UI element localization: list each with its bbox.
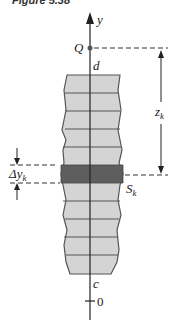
arrow-up-icon [14, 183, 20, 190]
figure-caption: Figure 5.38 [12, 0, 71, 6]
strip-width-label: Δyk [8, 166, 27, 183]
y-axis-arrow-icon [86, 12, 94, 24]
point-q [88, 46, 93, 51]
figure-diagram: Figure 5.38 y 0 c d Q zk Δyk Sk [0, 0, 177, 328]
bottom-limit-label: c [93, 276, 99, 291]
horizontal-strip [61, 165, 123, 183]
point-q-label: Q [74, 40, 84, 55]
origin-label: 0 [97, 294, 104, 309]
top-limit-label: d [93, 58, 100, 73]
y-axis-label: y [95, 12, 103, 27]
arrow-down-icon [158, 166, 164, 174]
arrow-down-icon [14, 158, 20, 165]
strip-label: Sk [126, 181, 138, 198]
arrow-up-icon [158, 50, 164, 58]
